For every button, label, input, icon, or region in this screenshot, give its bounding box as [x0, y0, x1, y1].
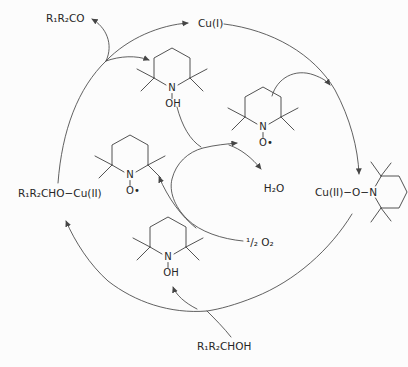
arrow-to-ketone — [92, 19, 109, 61]
piperidine-ring — [154, 48, 190, 85]
arrow-inner-cycle — [171, 143, 243, 241]
piperidine-ring — [112, 135, 148, 172]
tempoh-bottom-structure: N OH — [133, 217, 203, 278]
arrow-to-tempo-left — [159, 177, 196, 228]
diagram-canvas: N OH N O• N O• N OH Cu(II)−O−N R₁R₂CO Cu… — [0, 0, 408, 367]
arrow-bottom-cycle — [66, 214, 352, 311]
arrow-to-tempoh-top — [106, 57, 149, 61]
arrow-to-cu-i — [106, 23, 188, 61]
hydroxyl-label: OH — [165, 98, 180, 109]
arrow-cu-i-to-cu-ii-tempo — [224, 24, 359, 174]
oxyl-radical-label: O• — [259, 137, 273, 148]
cu-ii-tempo-label: Cu(II)−O−N — [315, 186, 377, 198]
nitrogen-label: N — [164, 251, 171, 262]
arrow-alcohol-merge — [207, 311, 231, 337]
arrow-alkoxide-up — [58, 61, 106, 183]
nitrogen-label: N — [259, 121, 266, 132]
water-label: H₂O — [264, 182, 284, 194]
alcohol-label: R₁R₂CHOH — [197, 340, 251, 352]
nitrogen-label: N — [126, 169, 133, 180]
tempo-radical-left-structure: N O• — [95, 135, 165, 196]
piperidine-ring — [376, 176, 408, 208]
ketone-label: R₁R₂CO — [46, 12, 85, 24]
reaction-arrows — [58, 19, 359, 337]
cu-ii-tempo-adduct-structure: Cu(II)−O−N — [315, 162, 407, 222]
hydroxyl-label: OH — [163, 267, 178, 278]
tempoh-top-structure: N OH — [137, 48, 207, 109]
arrow-to-tempoh-bottom — [173, 287, 197, 309]
mechanism-diagram: N OH N O• N O• N OH Cu(II)−O−N R₁R₂CO Cu… — [0, 0, 408, 367]
alkoxide-label: R₁R₂CHO−Cu(II) — [18, 187, 102, 199]
half-oxygen-label: ¹/₂ O₂ — [246, 236, 274, 248]
piperidine-ring — [245, 87, 281, 124]
cu-i-label: Cu(I) — [198, 17, 223, 29]
arrow-to-water — [229, 145, 261, 169]
arrow-tempo-radical-merge — [272, 73, 330, 96]
arrow-tempoh-oh-down — [177, 107, 201, 147]
oxyl-radical-label: O• — [126, 185, 140, 196]
nitrogen-label: N — [168, 82, 175, 93]
piperidine-ring — [150, 217, 186, 254]
tempo-radical-right-structure: N O• — [228, 87, 298, 148]
